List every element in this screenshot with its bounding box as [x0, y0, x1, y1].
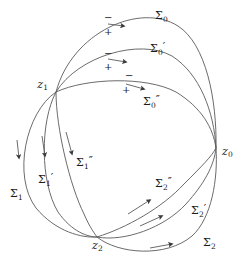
sigma-glyph: Σ	[191, 204, 199, 217]
sigma-prime: ″	[168, 175, 172, 188]
curve-sigma0	[56, 18, 216, 148]
sigma-prime: ″	[156, 93, 160, 106]
sigma-glyph: Σ	[150, 42, 158, 55]
node-label-z2: z2	[92, 240, 103, 253]
contour-curves	[0, 0, 241, 261]
sigma-sub: 2	[211, 242, 216, 251]
sign-plus-sigma0: +	[104, 27, 112, 37]
node-z0-base: z	[222, 145, 228, 158]
sigma-glyph: Σ	[203, 236, 211, 249]
node-z2-base: z	[92, 239, 98, 252]
contour-label-sigma2-prime: Σ2′	[191, 203, 206, 218]
sigma-glyph: Σ	[10, 187, 18, 200]
sigma-prime: ′	[204, 202, 206, 215]
curve-sigma0-dprime	[56, 81, 216, 148]
node-z1-base: z	[37, 78, 43, 91]
contour-label-sigma2: Σ2	[203, 235, 216, 250]
sign-plus-sigma0-prime: +	[104, 62, 112, 72]
curve-sigma2	[97, 148, 216, 251]
sigma-sub: 1	[18, 193, 23, 202]
node-label-z1: z1	[37, 79, 48, 92]
arrow-sigma2	[150, 244, 172, 248]
curve-sigma0-prime	[56, 49, 216, 148]
node-z0-sub: 0	[228, 150, 233, 159]
sigma-glyph: Σ	[143, 95, 151, 108]
arrow-sigma2-dprime	[128, 200, 150, 214]
arrow-sigma1	[17, 140, 19, 158]
contour-label-sigma2-dprime: Σ2″	[155, 176, 172, 191]
sigma-sub: 0	[163, 15, 168, 24]
node-z1-sub: 1	[43, 83, 48, 92]
node-label-z0: z0	[222, 146, 233, 159]
contour-label-sigma1-dprime: Σ1″	[76, 155, 93, 170]
contour-label-sigma0-dprime: Σ0″	[143, 94, 160, 109]
contour-diagram: z1 z0 z2 Σ0 Σ0′ Σ0″ Σ1 Σ1′ Σ1″ Σ2 Σ2′ Σ2…	[0, 0, 241, 261]
contour-label-sigma1: Σ1	[10, 186, 23, 201]
sigma-glyph: Σ	[155, 177, 163, 190]
sign-minus-sigma0-dprime: −	[125, 71, 133, 81]
sigma-prime: ′	[163, 40, 165, 53]
node-z2-sub: 2	[98, 244, 103, 253]
arrow-sigma1-dprime	[66, 132, 72, 154]
sign-minus-sigma0-prime: −	[104, 49, 112, 59]
contour-label-sigma1-prime: Σ1′	[38, 172, 53, 187]
sigma-prime: ″	[89, 154, 93, 167]
curve-sigma2-dprime	[97, 148, 216, 237]
sign-minus-sigma0: −	[104, 13, 112, 23]
contour-label-sigma0: Σ0	[155, 8, 168, 23]
sign-plus-sigma0-dprime: +	[122, 85, 130, 95]
contour-label-sigma0-prime: Σ0′	[150, 41, 165, 56]
sigma-glyph: Σ	[38, 173, 46, 186]
sigma-glyph: Σ	[76, 156, 84, 169]
curve-sigma2-prime	[97, 148, 216, 238]
sigma-glyph: Σ	[155, 9, 163, 22]
sigma-prime: ′	[51, 171, 53, 184]
